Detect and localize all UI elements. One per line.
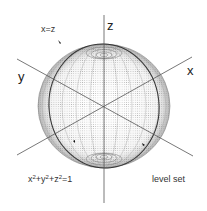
y-axis-label: y bbox=[18, 70, 25, 83]
sphere-equation: x2+y2+z2=1 bbox=[28, 175, 72, 184]
level-set-caption: level set bbox=[152, 175, 185, 184]
z-axis-label: z bbox=[107, 19, 114, 32]
marker-arrow-icon bbox=[58, 40, 61, 44]
x-axis-label: x bbox=[187, 64, 194, 77]
plane-label: x=z bbox=[41, 25, 55, 34]
